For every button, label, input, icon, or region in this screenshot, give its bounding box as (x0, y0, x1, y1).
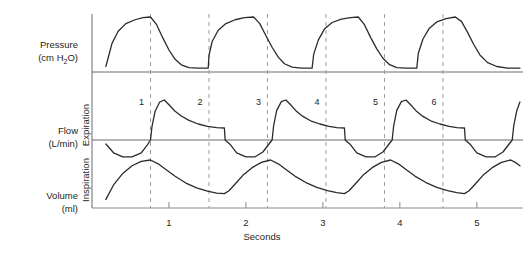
breath-number-2: 2 (197, 97, 202, 107)
axes-group (92, 14, 523, 208)
waveform-curves (106, 17, 520, 199)
ventilator-waveform-chart: Pressure (cm H2O) Flow (L/min) Volume (m… (0, 0, 531, 257)
flow-waveform (106, 100, 520, 157)
volume-label-line2: (ml) (62, 203, 78, 214)
breath-number-6: 6 (431, 97, 436, 107)
pressure-waveform (106, 17, 520, 68)
pressure-label-line2: (cm H2O) (38, 52, 78, 65)
volume-label-line1: Volume (46, 190, 78, 201)
pressure-label-line1: Pressure (40, 39, 78, 50)
x-axis-ticks (169, 202, 477, 208)
x-tick-label-2: 2 (243, 217, 248, 228)
expiration-label: Expiration (80, 104, 91, 146)
flow-label-line1: Flow (58, 125, 78, 136)
breath-number-1: 1 (139, 97, 144, 107)
inspiration-label: Inspiration (80, 158, 91, 202)
breath-number-5: 5 (373, 97, 378, 107)
x-axis-title: Seconds (244, 231, 281, 242)
x-axis-tick-labels: 12345 (166, 217, 479, 228)
x-tick-label-5: 5 (474, 217, 479, 228)
waveform-svg: Pressure (cm H2O) Flow (L/min) Volume (m… (0, 0, 531, 257)
volume-waveform (106, 160, 520, 199)
breath-number-4: 4 (314, 97, 319, 107)
x-tick-label-3: 3 (320, 217, 325, 228)
flow-label-line2: (L/min) (48, 138, 78, 149)
breath-number-3: 3 (256, 97, 261, 107)
x-tick-label-4: 4 (397, 217, 402, 228)
pressure-unit-suffix: O) (67, 52, 78, 63)
pressure-unit-prefix: (cm H (38, 52, 63, 63)
x-tick-label-1: 1 (166, 217, 171, 228)
